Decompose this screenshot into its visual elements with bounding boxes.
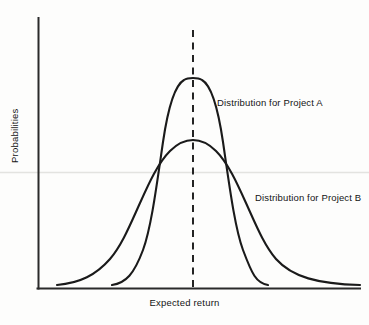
x-axis-label: Expected return <box>0 298 369 308</box>
curve-project-b <box>57 140 360 285</box>
series-label-project-a: Distribution for Project A <box>217 98 323 108</box>
probability-distribution-chart: Distribution for Project A Distribution … <box>0 0 369 325</box>
y-axis-label: Probabilities <box>10 94 20 178</box>
series-label-project-b: Distribution for Project B <box>255 193 361 203</box>
curve-project-a <box>112 78 268 285</box>
chart-canvas <box>0 0 369 325</box>
